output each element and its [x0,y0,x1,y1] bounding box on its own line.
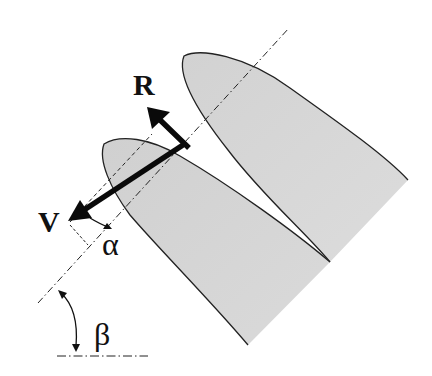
blade-cascade-diagram: R V α β [0,0,432,376]
velocity-label: V [38,205,60,238]
beta-label: β [94,316,110,352]
resultant-label: R [133,68,155,101]
alpha-label: α [102,226,119,262]
beta-angle-arc [58,290,80,352]
resultant-vector [147,107,187,146]
alpha-reference-dashed [70,225,88,245]
